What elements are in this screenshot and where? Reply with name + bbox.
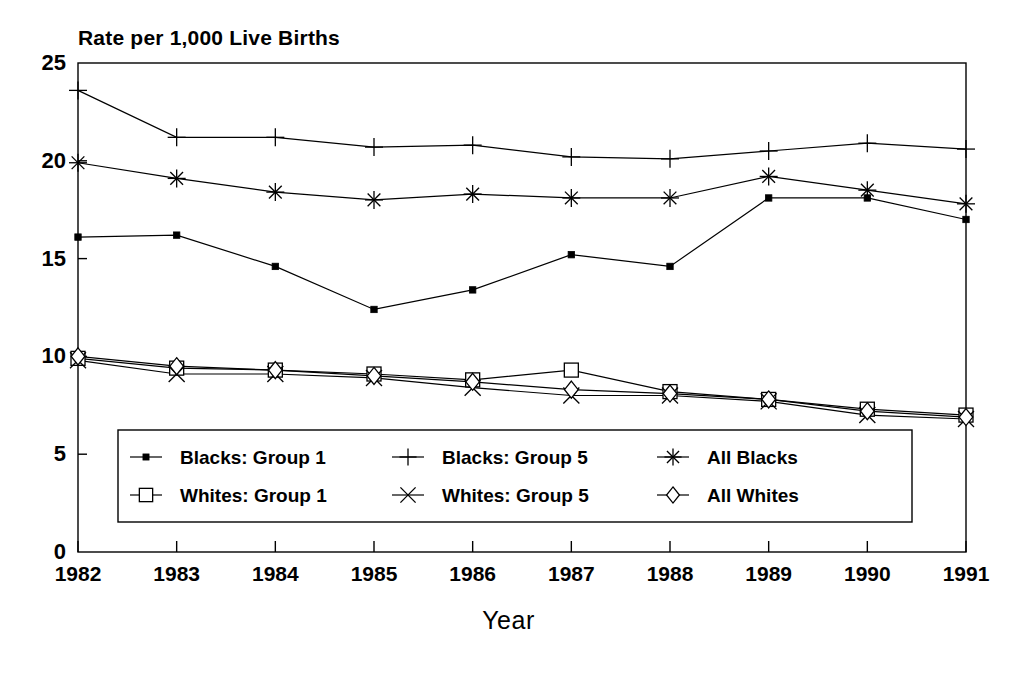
series-polyline [78,356,966,417]
marker-asterisk [562,189,580,207]
marker-plus [464,136,482,154]
series-line [78,90,966,158]
series-markers [75,195,969,313]
marker-filled-square [272,263,278,269]
legend-label: Blacks: Group 5 [442,447,588,468]
marker-plus [858,134,876,152]
marker-asterisk [266,183,284,201]
marker-asterisk [957,195,975,213]
marker-asterisk [760,167,778,185]
marker-filled-square [143,454,149,460]
marker-asterisk [858,181,876,199]
marker-filled-square [469,287,475,293]
marker-plus [760,142,778,160]
marker-plus [661,150,679,168]
chart-figure: Rate per 1,000 Live Births 0510152025 19… [0,0,1017,677]
marker-asterisk [69,154,87,172]
legend-label: Whites: Group 5 [442,485,589,506]
series-line [78,198,966,309]
legend-label: Blacks: Group 1 [180,447,326,468]
marker-filled-square [963,216,969,222]
legend-label: All Blacks [707,447,798,468]
marker-filled-square [75,234,81,240]
marker-asterisk [664,448,681,465]
marker-plus [266,128,284,146]
marker-asterisk [168,169,186,187]
marker-plus [168,128,186,146]
marker-plus [69,81,87,99]
plot-area: Blacks: Group 1Blacks: Group 5All Blacks… [0,0,1017,677]
legend-box [118,430,912,522]
series-markers [70,352,974,427]
marker-asterisk [365,191,383,209]
marker-asterisk [661,189,679,207]
marker-open-square [564,363,578,377]
series-line [78,356,966,417]
legend-label: All Whites [707,485,799,506]
series-polyline [78,198,966,309]
marker-filled-square [667,263,673,269]
marker-filled-square [173,232,179,238]
marker-open-square [139,488,152,501]
marker-filled-square [765,195,771,201]
marker-filled-square [568,251,574,257]
series-markers [69,154,975,213]
marker-filled-square [371,306,377,312]
chart-legend: Blacks: Group 1Blacks: Group 5All Blacks… [118,430,912,522]
marker-plus [957,140,975,158]
marker-plus [365,138,383,156]
marker-plus [562,148,580,166]
series-polyline [78,90,966,158]
series-markers [71,348,973,426]
marker-asterisk [464,185,482,203]
series-markers [69,81,975,167]
legend-label: Whites: Group 1 [180,485,327,506]
